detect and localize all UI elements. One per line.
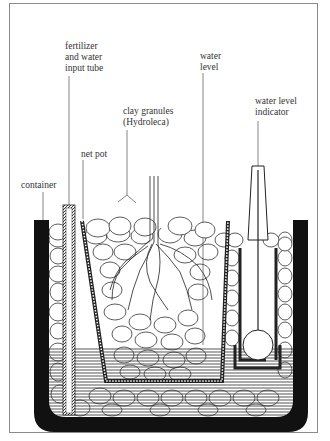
- water-level-indicator: [235, 166, 280, 368]
- plant-roots: [110, 176, 212, 320]
- fertilizer-tube: [63, 205, 75, 415]
- hydroponic-cross-section: [0, 0, 330, 441]
